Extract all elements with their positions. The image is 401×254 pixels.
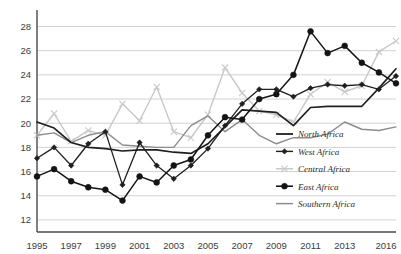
line-chart: 121416182022242628 199519971999200120032… [0,0,401,254]
x-tick-label: 2003 [163,240,184,251]
x-tick-label: 2013 [334,240,355,251]
series-marker-east-africa [68,178,74,184]
legend-label-west-africa: West Africa [298,147,340,157]
legend-item-central-africa[interactable]: Central Africa [276,164,351,174]
series-marker-east-africa [256,96,262,102]
x-tick-label: 2016 [375,240,396,251]
series-marker-east-africa [308,28,314,34]
x-tick-label: 1999 [95,240,116,251]
series-north-africa [37,69,396,154]
y-tick-label: 22 [20,93,31,104]
chart-canvas: 121416182022242628 199519971999200120032… [0,0,401,254]
legend-item-southern-africa[interactable]: Southern Africa [276,199,356,209]
series-marker-west-africa [342,83,347,88]
series-marker-west-africa [291,94,296,99]
series-marker-central-africa [342,89,348,95]
series-marker-west-africa [308,85,313,90]
series-marker-central-africa [239,90,245,96]
series-marker-central-africa [376,49,382,55]
data-series-group [34,28,399,203]
x-tick-label: 2007 [232,240,253,251]
series-marker-east-africa [205,132,211,138]
x-tick-label: 2009 [266,240,287,251]
x-axis-tick-labels: 1995199719992001200320052007200920112013… [26,240,396,251]
legend-item-west-africa[interactable]: West Africa [276,147,340,157]
series-marker-east-africa [359,60,365,66]
series-marker-central-africa [307,91,313,97]
series-marker-east-africa [222,114,228,120]
y-tick-label: 14 [20,190,31,201]
y-tick-label: 20 [20,118,31,129]
series-marker-east-africa [325,50,331,56]
series-marker-central-africa [51,110,57,116]
legend-item-north-africa[interactable]: North Africa [276,129,344,139]
series-line-north-africa [37,69,396,154]
y-tick-label: 28 [20,21,31,32]
chart-legend: North AfricaWest AfricaCentral AfricaEas… [276,129,356,209]
series-line-east-africa [37,31,396,200]
series-marker-east-africa [102,187,108,193]
series-marker-east-africa [376,70,382,76]
y-tick-label: 16 [20,166,31,177]
y-tick-label: 24 [20,69,31,80]
series-east-africa [34,28,399,203]
series-marker-east-africa [239,117,245,123]
x-tick-label: 1997 [61,240,82,251]
y-axis-tick-labels: 121416182022242628 [20,21,31,225]
series-marker-central-africa [171,129,177,135]
y-tick-label: 12 [20,214,31,225]
x-tick-label: 2005 [197,240,218,251]
y-tick-label: 26 [20,45,31,56]
legend-marker-east-africa [282,183,288,189]
series-marker-central-africa [222,65,228,71]
legend-label-central-africa: Central Africa [298,164,351,174]
x-tick-label: 1995 [26,240,47,251]
legend-label-north-africa: North Africa [297,129,344,139]
y-tick-label: 18 [20,142,31,153]
series-central-africa [34,38,399,145]
series-marker-east-africa [273,91,279,97]
series-marker-east-africa [85,184,91,190]
legend-marker-west-africa [282,149,287,154]
series-marker-central-africa [188,135,194,141]
series-marker-east-africa [154,180,160,186]
series-marker-east-africa [188,157,194,163]
series-marker-east-africa [120,198,126,204]
series-marker-central-africa [393,38,399,44]
series-marker-east-africa [393,80,399,86]
x-tick-label: 2011 [300,240,320,251]
legend-label-east-africa: East Africa [297,182,339,192]
legend-label-southern-africa: Southern Africa [298,199,356,209]
series-marker-central-africa [154,84,160,90]
series-marker-east-africa [34,173,40,179]
series-marker-east-africa [51,166,57,172]
series-marker-west-africa [120,182,125,187]
x-tick-label: 2001 [129,240,150,251]
series-marker-east-africa [171,163,177,169]
series-marker-east-africa [291,72,297,78]
series-marker-east-africa [342,43,348,49]
series-marker-east-africa [137,173,143,179]
series-marker-central-africa [119,101,125,107]
legend-item-east-africa[interactable]: East Africa [276,182,339,192]
